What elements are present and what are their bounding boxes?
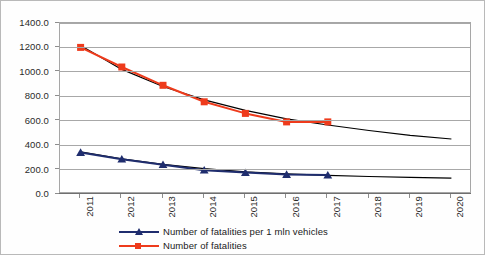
trendline (81, 46, 452, 139)
legend-key (119, 240, 159, 252)
gridline (60, 71, 470, 72)
x-tick-label: 2012 (125, 196, 136, 218)
y-tick-label: 600.0 (25, 114, 49, 125)
data-point-marker (118, 64, 125, 71)
x-tick-mark (285, 194, 286, 198)
y-tick-label: 800.0 (25, 90, 49, 101)
y-tick-label: 200.0 (25, 163, 49, 174)
y-tick-label: 0.0 (35, 188, 49, 199)
gridline (60, 120, 470, 121)
x-tick-mark (409, 194, 410, 198)
x-tick-label: 2020 (454, 196, 465, 218)
chart-figure: 0.0200.0400.0600.0800.01000.01200.01400.… (0, 0, 485, 255)
gridline (60, 145, 470, 146)
y-tick-label: 1200.0 (19, 41, 49, 52)
data-point-marker (160, 82, 167, 89)
x-tick-label: 2016 (290, 196, 301, 218)
y-tick-label: 1400.0 (19, 17, 49, 28)
x-tick-label: 2011 (84, 196, 95, 217)
legend-triangle-marker-icon (135, 228, 143, 235)
gridline (60, 96, 470, 97)
x-tick-label: 2013 (166, 196, 177, 218)
data-point-marker (201, 98, 208, 105)
y-tick-label: 1000.0 (19, 65, 49, 76)
legend-label: Number of fatalities per 1 mln vehicles (159, 226, 328, 237)
legend-item[interactable]: Number of fatalities per 1 mln vehicles (119, 225, 409, 238)
legend-key (119, 226, 159, 238)
x-tick-mark (203, 194, 204, 198)
x-tick-label: 2014 (207, 196, 218, 218)
y-tick-label: 400.0 (25, 139, 49, 150)
x-tick-mark (326, 194, 327, 198)
gridline (60, 169, 470, 170)
x-tick-mark (79, 194, 80, 198)
x-tick-mark (120, 194, 121, 198)
x-tick-label: 2018 (372, 196, 383, 218)
x-tick-label: 2015 (248, 196, 259, 218)
y-axis-labels: 0.0200.0400.0600.0800.01000.01200.01400.… (1, 22, 55, 193)
x-tick-label: 2019 (413, 196, 424, 218)
x-tick-label: 2017 (331, 196, 342, 218)
x-axis-labels: 2011201220132014201520162017201820192020 (59, 194, 471, 228)
x-tick-mark (368, 194, 369, 198)
chart-legend: Number of fatalities per 1 mln vehiclesN… (119, 225, 409, 253)
plot-area (59, 22, 471, 193)
legend-item[interactable]: Number of fatalities (119, 239, 409, 252)
gridline (60, 23, 470, 24)
gridline (60, 47, 470, 48)
x-tick-mark (162, 194, 163, 198)
x-tick-mark (450, 194, 451, 198)
series-line (81, 47, 328, 122)
legend-label: Number of fatalities (159, 240, 247, 251)
x-tick-mark (244, 194, 245, 198)
legend-square-marker-icon (135, 243, 141, 249)
data-point-marker (242, 110, 249, 117)
